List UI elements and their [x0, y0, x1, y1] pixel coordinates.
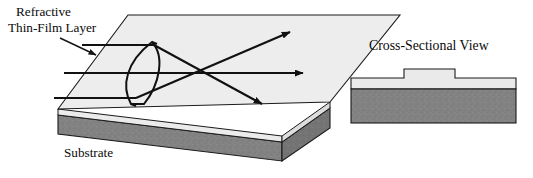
callout-label-line1: Refractive: [16, 4, 71, 19]
cross-section-title: Cross-Sectional View: [369, 38, 489, 53]
figure-root: Substrate Refractive Thin-Film Layer: [0, 0, 533, 178]
thin-film-top-surface: [58, 15, 400, 109]
cross-section-substrate: [351, 89, 516, 123]
callout-leader-arrow: [60, 38, 96, 55]
perspective-slab-group: Substrate Refractive Thin-Film Layer: [8, 4, 400, 161]
technical-diagram: Substrate Refractive Thin-Film Layer: [0, 0, 533, 178]
cross-section-group: Cross-Sectional View: [351, 38, 516, 123]
cross-section-thin-film: [351, 69, 516, 89]
substrate-label: Substrate: [64, 145, 113, 160]
callout-label-line2: Thin-Film Layer: [8, 20, 97, 35]
